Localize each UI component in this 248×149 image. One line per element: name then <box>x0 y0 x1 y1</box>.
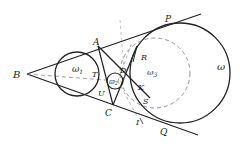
geometry-diagram: B A C P Q D K R S I T U ω1 ω2 ω3 ω <box>0 0 248 149</box>
label-B: B <box>12 69 20 80</box>
label-omega1: ω1 <box>72 64 83 75</box>
label-R: R <box>140 53 147 62</box>
label-S: S <box>143 97 149 106</box>
label-C: C <box>105 108 112 118</box>
label-omega2: ω2 <box>109 78 118 86</box>
label-omega3: ω3 <box>147 68 158 78</box>
label-K: K <box>137 83 145 92</box>
label-omega: ω <box>217 61 225 72</box>
label-P: P <box>164 14 172 24</box>
label-Q: Q <box>160 127 168 137</box>
label-A: A <box>92 37 100 47</box>
tick-I <box>140 118 143 124</box>
label-U: U <box>98 89 105 98</box>
label-D: D <box>119 66 127 75</box>
dashed-axis-line <box>27 74 118 81</box>
label-I: I <box>135 118 140 127</box>
diagram-svg: B A C P Q D K R S I T U ω1 ω2 ω3 ω <box>0 0 248 149</box>
label-T: T <box>92 70 98 79</box>
circle-omega <box>130 23 230 123</box>
